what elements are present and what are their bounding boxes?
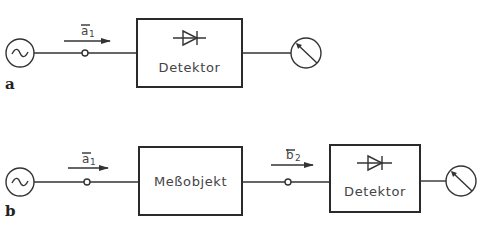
wave-label-sub: 1 <box>89 29 95 39</box>
ac-source-icon <box>6 168 34 196</box>
wave-label-sub: 1 <box>90 157 96 167</box>
wave-label-main: a <box>81 24 88 38</box>
wave-label-sub: 2 <box>295 153 301 163</box>
panel-a: a 1 Detektor a <box>5 19 321 93</box>
panel-label: b <box>5 202 16 220</box>
detector-label: Detektor <box>159 60 221 75</box>
panel-label: a <box>5 75 15 93</box>
panel-b: a 1 Meßobjekt b 2 Detektor b <box>5 145 476 220</box>
terminal-port <box>82 50 88 56</box>
ac-source-icon <box>6 39 34 67</box>
dut-label: Meßobjekt <box>154 174 227 189</box>
detector-block <box>137 19 242 87</box>
meter-icon <box>446 166 476 196</box>
detector-block <box>330 145 420 212</box>
terminal-port <box>285 179 291 185</box>
diagram-canvas: a 1 Detektor a a 1 <box>0 0 487 226</box>
detector-label: Detektor <box>344 184 406 199</box>
terminal-port <box>84 179 90 185</box>
meter-icon <box>291 38 321 68</box>
wave-label-main: a <box>82 152 89 166</box>
